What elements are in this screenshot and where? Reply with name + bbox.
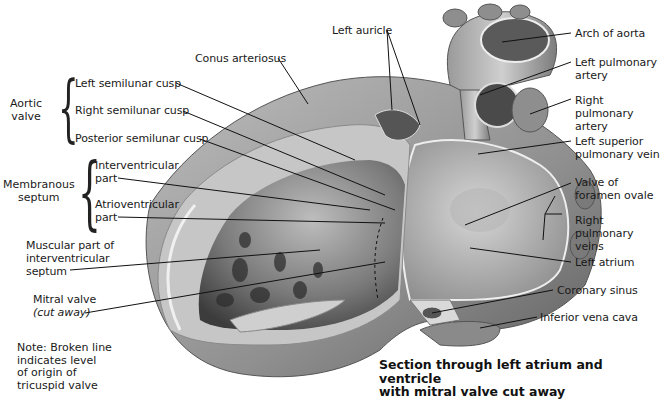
- label-right-pulmonary-artery: Right pulmonary artery: [575, 94, 663, 133]
- label-conus-arteriosus: Conus arteriosus: [195, 52, 286, 65]
- figure-caption: Section through left atrium and ventricl…: [379, 358, 663, 399]
- label-muscular-part-septum: Muscular part of interventricular septum: [26, 239, 114, 278]
- label-inferior-vena-cava: Inferior vena cava: [540, 311, 638, 324]
- group-membranous-septum: Membranous septum: [3, 178, 75, 204]
- label-coronary-sinus: Coronary sinus: [557, 284, 638, 297]
- label-left-pulmonary-artery: Left pulmonary artery: [575, 56, 657, 82]
- label-left-semilunar-cusp: Left semilunar cusp: [75, 77, 181, 90]
- label-interventricular-part: Interventricular part: [95, 159, 179, 185]
- label-atrioventricular-part: Atrioventricular part: [95, 198, 179, 224]
- label-left-superior-pulmonary-vein: Left superior pulmonary vein: [575, 135, 660, 161]
- label-mitral-valve-cut-away: (cut away): [33, 306, 90, 319]
- group-aortic-valve: Aortic valve: [10, 97, 42, 123]
- label-posterior-semilunar-cusp: Posterior semilunar cusp: [75, 132, 208, 145]
- label-mitral-valve: Mitral valve: [33, 293, 96, 306]
- label-right-pulmonary-veins: Right pulmonary veins: [575, 214, 663, 253]
- label-right-semilunar-cusp: Right semilunar cusp: [75, 104, 189, 117]
- note-broken-line: Note: Broken line indicates level of ori…: [17, 342, 112, 392]
- label-left-auricle: Left auricle: [332, 24, 392, 37]
- label-arch-of-aorta: Arch of aorta: [575, 27, 645, 40]
- label-left-atrium: Left atrium: [575, 256, 634, 269]
- label-valve-of-foramen-ovale: Valve of foramen ovale: [575, 176, 653, 202]
